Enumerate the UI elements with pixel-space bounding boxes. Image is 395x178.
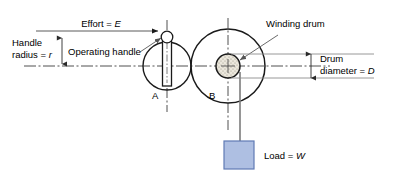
drum-diameter-label-line1: Drum — [320, 53, 343, 64]
effort-label: Effort = E — [81, 18, 121, 29]
load-label: Load = W — [264, 150, 306, 161]
point-label-b: B — [209, 90, 215, 101]
operating-handle-label: Operating handle — [68, 46, 141, 57]
windlass-diagram: Effort = E Handle radius = r Operating h… — [0, 0, 395, 178]
diagram-canvas: Effort = E Handle radius = r Operating h… — [0, 0, 395, 178]
operating-handle-leader — [140, 38, 161, 52]
drum-diameter-label-line2: diameter = D — [320, 65, 375, 76]
handle-radius-label-line2: radius = r — [12, 49, 53, 60]
point-label-a: A — [152, 90, 159, 101]
winding-drum-label: Winding drum — [266, 18, 325, 29]
handle-radius-label-line1: Handle — [12, 37, 42, 48]
centerlines — [24, 18, 330, 132]
load-block — [224, 141, 254, 169]
winding-drum-leader — [240, 35, 278, 60]
operating-handle — [161, 31, 173, 86]
handle-knob — [161, 31, 173, 43]
